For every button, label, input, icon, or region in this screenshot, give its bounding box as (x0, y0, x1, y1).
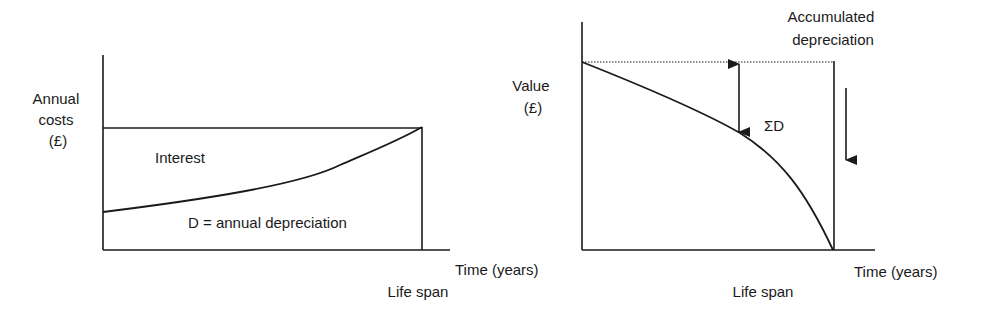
annual-costs-diagram: Annual costs (£) Interest D = annual dep… (33, 55, 539, 300)
accumulated-depreciation-label: Accumulated depreciation (788, 8, 879, 48)
value-curve (582, 62, 833, 250)
life-span-label: Life span (388, 283, 449, 300)
y-axis-label: Value (£) (512, 77, 553, 116)
y-axis-label: Annual costs (£) (33, 90, 84, 149)
x-axis-label: Time (years) (455, 261, 539, 278)
value-diagram: Value (£) Accumulated depreciation ΣD Ti… (512, 8, 937, 300)
life-span-label: Life span (733, 283, 794, 300)
x-axis-label: Time (years) (854, 263, 938, 280)
diagram-canvas: Annual costs (£) Interest D = annual dep… (0, 0, 983, 310)
depreciation-label: D = annual depreciation (188, 214, 347, 231)
sigma-d-label: ΣD (764, 117, 784, 134)
depreciation-curve (103, 127, 422, 212)
interest-label: Interest (155, 149, 206, 166)
